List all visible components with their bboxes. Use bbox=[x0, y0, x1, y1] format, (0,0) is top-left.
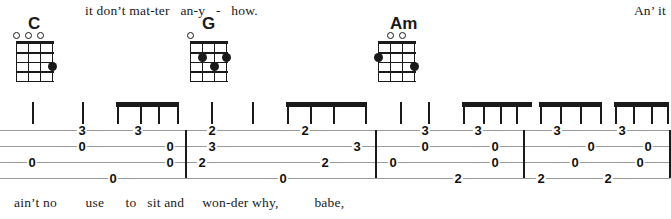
barline bbox=[669, 130, 671, 178]
fret-line bbox=[190, 62, 228, 63]
tab-string-line-1 bbox=[0, 130, 670, 131]
tab-note[interactable]: 0 bbox=[27, 157, 37, 168]
tab-note[interactable]: 2 bbox=[536, 173, 546, 184]
chord-diagram-am: Am bbox=[378, 32, 420, 88]
finger-dot bbox=[374, 53, 383, 62]
fret-line bbox=[16, 71, 54, 72]
tab-note[interactable]: 0 bbox=[165, 157, 175, 168]
tab-note[interactable]: 0 bbox=[586, 141, 596, 152]
barline bbox=[185, 130, 187, 178]
open-string-circle-icon bbox=[387, 32, 394, 39]
beam bbox=[286, 102, 366, 107]
tab-note[interactable]: 0 bbox=[635, 157, 645, 168]
tab-note[interactable]: 0 bbox=[278, 173, 288, 184]
tab-note[interactable]: 0 bbox=[165, 141, 175, 152]
tab-note[interactable]: 0 bbox=[490, 157, 500, 168]
chord-name-label: Am bbox=[390, 14, 417, 34]
nut bbox=[16, 41, 54, 44]
tab-note[interactable]: 0 bbox=[643, 141, 653, 152]
tab-note[interactable]: 3 bbox=[133, 125, 143, 136]
chord-grid bbox=[378, 41, 416, 81]
string-line bbox=[28, 41, 29, 81]
beam bbox=[539, 102, 601, 107]
fret-line bbox=[190, 71, 228, 72]
string-line bbox=[40, 41, 41, 81]
chord-grid bbox=[190, 41, 228, 81]
fret-line bbox=[16, 81, 54, 82]
chord-diagram-g: G bbox=[190, 32, 232, 88]
barline bbox=[375, 130, 377, 178]
finger-dot bbox=[210, 62, 219, 71]
lyrics-line-top-pickup: An’ it bbox=[634, 3, 666, 19]
tab-note[interactable]: 3 bbox=[617, 125, 627, 136]
tab-note[interactable]: 2 bbox=[603, 173, 613, 184]
string-line bbox=[190, 41, 191, 81]
open-string-circle-icon bbox=[399, 32, 406, 39]
string-line bbox=[390, 41, 391, 81]
nut bbox=[378, 41, 416, 44]
fret-line bbox=[378, 81, 416, 82]
tab-note[interactable]: 3 bbox=[207, 141, 217, 152]
chord-diagram-c: C bbox=[16, 32, 58, 88]
tab-string-line-2 bbox=[0, 146, 670, 147]
string-line bbox=[214, 41, 215, 81]
tab-note[interactable]: 0 bbox=[420, 141, 430, 152]
string-line bbox=[16, 41, 17, 81]
chord-grid bbox=[16, 41, 54, 81]
lyrics-line-top: it don’t mat-ter an-y - how. bbox=[85, 3, 258, 19]
beam bbox=[614, 102, 668, 107]
string-line bbox=[402, 41, 403, 81]
fret-line bbox=[378, 52, 416, 53]
finger-dot bbox=[198, 53, 207, 62]
tab-note[interactable]: 2 bbox=[207, 125, 217, 136]
fret-line bbox=[16, 52, 54, 53]
tab-note[interactable]: 3 bbox=[420, 125, 430, 136]
tab-staff[interactable]: 03003002320223300230032002300 bbox=[0, 120, 670, 186]
finger-dot bbox=[48, 62, 57, 71]
fret-line bbox=[190, 81, 228, 82]
open-string-circle-icon bbox=[25, 32, 32, 39]
tab-note[interactable]: 3 bbox=[552, 125, 562, 136]
tab-note[interactable]: 0 bbox=[108, 173, 118, 184]
chord-name-label: C bbox=[28, 14, 40, 34]
fret-line bbox=[378, 71, 416, 72]
tab-note[interactable]: 2 bbox=[320, 157, 330, 168]
tab-note[interactable]: 2 bbox=[197, 157, 207, 168]
chord-name-label: G bbox=[202, 14, 215, 34]
nut bbox=[190, 41, 228, 44]
open-string-circle-icon bbox=[37, 32, 44, 39]
tab-note[interactable]: 3 bbox=[77, 125, 87, 136]
tab-note[interactable]: 2 bbox=[300, 125, 310, 136]
tab-note[interactable]: 3 bbox=[352, 141, 362, 152]
tab-note[interactable]: 3 bbox=[473, 125, 483, 136]
barline bbox=[523, 130, 525, 178]
open-string-circle-icon bbox=[187, 32, 194, 39]
tab-note[interactable]: 2 bbox=[453, 173, 463, 184]
finger-dot bbox=[410, 62, 419, 71]
string-line bbox=[52, 41, 53, 81]
string-line bbox=[414, 41, 415, 81]
tab-note[interactable]: 0 bbox=[388, 157, 398, 168]
tab-note[interactable]: 0 bbox=[490, 141, 500, 152]
finger-dot bbox=[222, 53, 231, 62]
open-string-circle-icon bbox=[13, 32, 20, 39]
tab-note[interactable]: 0 bbox=[570, 157, 580, 168]
beam bbox=[116, 102, 178, 107]
tab-string-line-4 bbox=[0, 178, 670, 179]
tab-note[interactable]: 0 bbox=[77, 141, 87, 152]
beam bbox=[462, 102, 532, 107]
lyrics-line-bottom: ain’t no use to sit and won-der why, bab… bbox=[14, 195, 344, 211]
